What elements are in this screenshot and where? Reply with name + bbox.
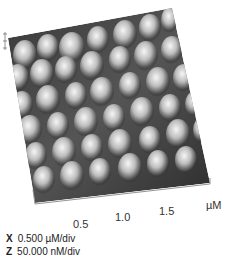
scale-legend-z: Z50.000 nM/div (6, 246, 80, 257)
afm-surface-plot (0, 0, 232, 215)
legend-z-axis-label: Z (6, 246, 12, 257)
legend-x-axis-label: X (6, 233, 13, 244)
legend-z-value: 50.000 nM/div (17, 246, 80, 257)
x-tick-0-5: 0.5 (73, 219, 88, 230)
x-tick-1-0: 1.0 (115, 212, 130, 223)
z-axis (3, 32, 7, 50)
scale-legend-x: X0.500 µM/div (6, 233, 75, 244)
legend-x-value: 0.500 µM/div (18, 233, 75, 244)
surface-bumps (7, 7, 211, 203)
x-axis-unit: µM (206, 200, 222, 211)
x-tick-1-5: 1.5 (159, 206, 174, 217)
